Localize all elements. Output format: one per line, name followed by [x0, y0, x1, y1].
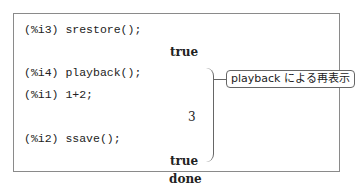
output-done: done	[169, 172, 202, 183]
output-true-1: true	[170, 45, 198, 59]
input-line-i1: (%i1) 1+2;	[24, 88, 93, 101]
input-line-i2: (%i2) ssave();	[24, 132, 121, 145]
input-line-i4: (%i4) playback();	[24, 66, 141, 79]
playback-bracket	[206, 68, 214, 162]
callout-connector	[214, 79, 226, 80]
playback-annotation: playback による再表示	[226, 70, 355, 88]
console-frame: (%i3) srestore(); true (%i4) playback();…	[13, 13, 340, 172]
input-line-i3: (%i3) srestore();	[24, 23, 141, 36]
output-true-2: true	[170, 154, 198, 168]
output-3: 3	[188, 110, 196, 124]
